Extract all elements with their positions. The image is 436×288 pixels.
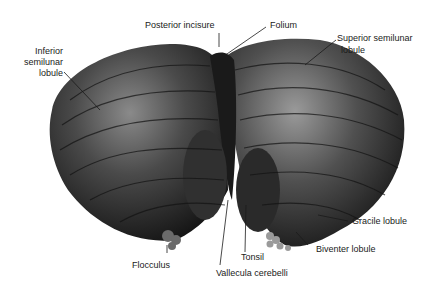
label-flocculus: Flocculus (132, 260, 170, 271)
label-tonsil: Tonsil (241, 252, 264, 263)
label-folium: Folium (270, 20, 297, 31)
right-tonsil (236, 148, 280, 232)
label-inferior-semilunar-2: semilunar (15, 57, 63, 68)
label-vallecula-cerebelli: Vallecula cerebelli (216, 268, 288, 279)
cerebellum-diagram: Posterior incisure Folium Inferior semil… (0, 0, 436, 288)
label-superior-semilunar-1: Superior semilunar (337, 33, 413, 44)
label-inferior-semilunar-3: lobule (25, 68, 63, 79)
label-gracile-lobule: Gracile lobule (352, 216, 407, 227)
label-superior-semilunar-2: lobule (341, 45, 365, 56)
label-biventer-lobule: Biventer lobule (316, 244, 376, 255)
label-posterior-incisure: Posterior incisure (145, 20, 215, 31)
left-inner-lobe (183, 130, 227, 220)
label-inferior-semilunar-1: Inferior (25, 46, 63, 57)
